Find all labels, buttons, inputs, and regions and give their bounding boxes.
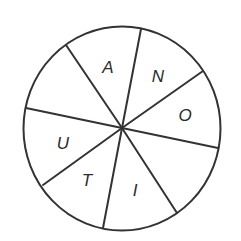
sector-letter-t: T bbox=[82, 171, 94, 190]
spoke-4 bbox=[122, 128, 177, 213]
spoke-5 bbox=[103, 128, 122, 228]
sector-letter-o: O bbox=[178, 106, 191, 125]
sector-letter-n: N bbox=[152, 67, 165, 86]
sector-letter-i: I bbox=[133, 181, 138, 200]
sector-letter-a: A bbox=[101, 58, 113, 77]
spoke-3 bbox=[122, 128, 218, 148]
spokes bbox=[26, 29, 218, 228]
letter-wheel: A N O I T U bbox=[0, 0, 241, 241]
spoke-1 bbox=[122, 29, 141, 128]
spoke-7 bbox=[26, 108, 122, 128]
sector-letter-u: U bbox=[57, 134, 70, 153]
